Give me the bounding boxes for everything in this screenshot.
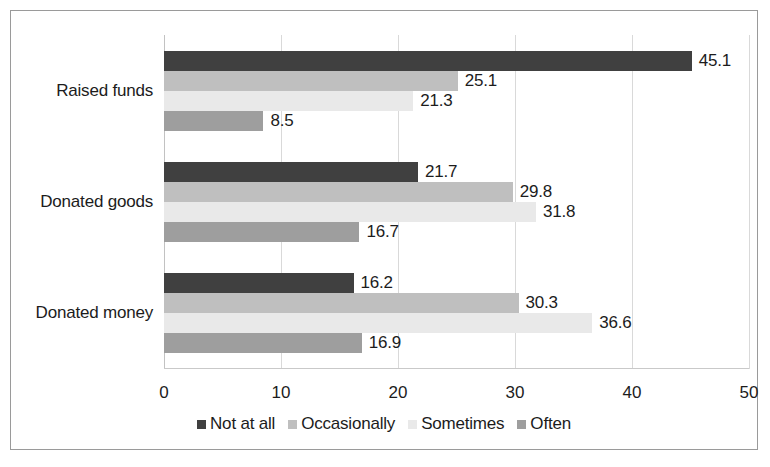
bar-value-label: 25.1: [458, 71, 497, 91]
bar-row: 16.2: [164, 273, 749, 293]
legend-swatch-icon: [517, 420, 526, 429]
category-label: Donated goods: [40, 192, 153, 212]
bar[interactable]: [164, 222, 359, 242]
chart-frame: Raised funds45.125.121.38.5Donated goods…: [10, 10, 758, 450]
bar-value-label: 16.2: [354, 273, 393, 293]
x-tick-label: 0: [159, 383, 168, 403]
bar[interactable]: [164, 162, 418, 182]
bar-value-label: 21.7: [418, 162, 457, 182]
x-axis-baseline: [164, 368, 749, 369]
bar-row: 21.7: [164, 162, 749, 182]
x-tick-label: 20: [389, 383, 408, 403]
bar[interactable]: [164, 111, 263, 131]
bar-group: Donated goods21.729.831.816.7: [164, 162, 749, 242]
legend-label: Not at all: [210, 414, 275, 434]
legend-item[interactable]: Occasionally: [288, 414, 395, 434]
bar-row: 30.3: [164, 293, 749, 313]
x-tick-label: 40: [623, 383, 642, 403]
bar[interactable]: [164, 313, 592, 333]
bar[interactable]: [164, 273, 354, 293]
bar-value-label: 31.8: [536, 202, 575, 222]
bar-value-label: 16.9: [362, 333, 401, 353]
bar-row: 16.9: [164, 333, 749, 353]
bar-value-label: 36.6: [592, 313, 631, 333]
bar-row: 8.5: [164, 111, 749, 131]
legend-swatch-icon: [408, 420, 417, 429]
legend-swatch-icon: [197, 420, 206, 429]
category-label: Raised funds: [56, 81, 153, 101]
bar[interactable]: [164, 293, 519, 313]
x-tick-label: 50: [740, 383, 759, 403]
legend-item[interactable]: Not at all: [197, 414, 275, 434]
bar[interactable]: [164, 51, 692, 71]
bar-value-label: 30.3: [519, 293, 558, 313]
bar-row: 45.1: [164, 51, 749, 71]
bar-row: 21.3: [164, 91, 749, 111]
chart-legend: Not at allOccasionallySometimesOften: [11, 414, 757, 434]
bar[interactable]: [164, 71, 458, 91]
bar-value-label: 29.8: [513, 182, 552, 202]
bar[interactable]: [164, 182, 513, 202]
x-tick-label: 30: [506, 383, 525, 403]
bar-group: Donated money16.230.336.616.9: [164, 273, 749, 353]
bar-value-label: 16.7: [359, 222, 398, 242]
bar-value-label: 21.3: [413, 91, 452, 111]
bar[interactable]: [164, 202, 536, 222]
bar-row: 16.7: [164, 222, 749, 242]
legend-label: Occasionally: [301, 414, 395, 434]
bar-value-label: 8.5: [263, 111, 293, 131]
gridline: [749, 35, 750, 369]
x-axis-tick-labels: 01020304050: [164, 379, 749, 407]
x-tick-label: 10: [272, 383, 291, 403]
bar[interactable]: [164, 333, 362, 353]
plot-area: Raised funds45.125.121.38.5Donated goods…: [164, 35, 749, 369]
bar-value-label: 45.1: [692, 51, 731, 71]
bar-row: 31.8: [164, 202, 749, 222]
legend-swatch-icon: [288, 420, 297, 429]
legend-label: Sometimes: [421, 414, 504, 434]
bar-row: 29.8: [164, 182, 749, 202]
bar-row: 36.6: [164, 313, 749, 333]
bar-row: 25.1: [164, 71, 749, 91]
legend-item[interactable]: Sometimes: [408, 414, 504, 434]
category-label: Donated money: [36, 303, 153, 323]
legend-label: Often: [530, 414, 571, 434]
legend-item[interactable]: Often: [517, 414, 571, 434]
bar[interactable]: [164, 91, 413, 111]
bar-group: Raised funds45.125.121.38.5: [164, 51, 749, 131]
